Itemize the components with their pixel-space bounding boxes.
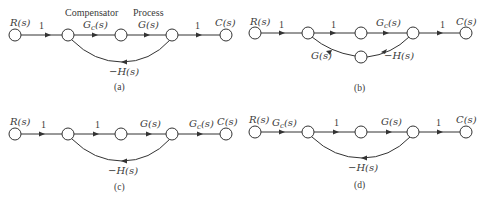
arrow-icon	[361, 156, 367, 161]
compensator-gain-label: Gc(s)	[272, 117, 297, 130]
node-input	[249, 126, 261, 138]
input-label: R(s)	[9, 116, 31, 127]
process-gain-label: G(s)	[381, 116, 402, 127]
arrow-icon	[279, 31, 285, 36]
node	[355, 126, 367, 138]
output-label: C(s)	[456, 114, 477, 125]
feedback-label: −H(s)	[109, 66, 139, 77]
process-gain-label: G(s)	[140, 118, 161, 129]
node-output	[220, 29, 232, 41]
branch-gain-label: 1	[436, 117, 441, 128]
branch-gain-label: 1	[279, 19, 284, 30]
arrow-icon	[437, 31, 443, 36]
branch-gain-label: 1	[440, 19, 445, 30]
arrow-icon	[279, 130, 285, 135]
arrow-icon	[45, 33, 51, 38]
arrow-icon	[93, 132, 99, 137]
process-gain-label: G(s)	[311, 50, 332, 61]
arrow-icon	[330, 31, 336, 36]
node	[302, 126, 314, 138]
arrow-icon	[92, 33, 98, 38]
node-output	[460, 126, 472, 138]
arrow-icon	[197, 132, 203, 137]
arrow-icon	[333, 130, 339, 135]
arrow-icon	[383, 31, 389, 36]
arrow-icon	[121, 60, 127, 65]
node	[115, 128, 127, 140]
output-label: C(s)	[456, 16, 477, 27]
feedback-branch-c	[72, 139, 170, 161]
branch-gain-label: 1	[95, 119, 100, 130]
node-input	[9, 29, 21, 41]
caption: (c)	[114, 182, 125, 193]
node-input	[249, 27, 261, 39]
arrow-icon	[386, 130, 392, 135]
caption: (d)	[354, 180, 365, 191]
input-label: R(s)	[249, 16, 271, 27]
output-label: C(s)	[217, 116, 238, 127]
feedback-label: −H(s)	[108, 165, 138, 176]
branch-gain-label: 1	[39, 20, 44, 31]
node	[407, 27, 419, 39]
node-lower	[355, 51, 367, 63]
node	[407, 126, 419, 138]
node	[302, 27, 314, 39]
diagram-b: R(s) 1 1 Gc(s) 1 C(s) G(s) −H(s) (b)	[249, 16, 477, 94]
arrow-icon	[121, 159, 127, 164]
node	[166, 29, 178, 41]
compensator-gain-label: Gc(s)	[189, 118, 214, 131]
process-gain-label: G(s)	[138, 19, 159, 30]
diagram-d: R(s) Gc(s) 1 G(s) 1 C(s) −H(s) (d)	[248, 114, 477, 191]
feedback-branch-d	[312, 137, 410, 158]
arrow-icon	[146, 132, 152, 137]
compensator-gain-label: Gc(s)	[83, 19, 108, 32]
node-output	[460, 27, 472, 39]
diagram-c: R(s) 1 1 G(s) Gc(s) C(s) −H(s) (c)	[9, 116, 238, 193]
node	[355, 27, 367, 39]
feedback-label: −H(s)	[384, 50, 414, 61]
branch-gain-label: 1	[331, 19, 336, 30]
process-header: Process	[133, 7, 164, 18]
node	[166, 128, 178, 140]
branch-gain-label: 1	[41, 119, 46, 130]
caption: (a)	[114, 82, 125, 93]
arrow-icon	[196, 33, 202, 38]
diagram-a: R(s) 1 Compensator Gc(s) Process G(s) 1 …	[9, 7, 236, 93]
signal-flow-graphs: R(s) 1 Compensator Gc(s) Process G(s) 1 …	[0, 0, 480, 199]
compensator-gain-label: Gc(s)	[376, 17, 401, 30]
feedback-branch-a	[72, 40, 170, 62]
node	[62, 128, 74, 140]
compensator-header: Compensator	[65, 7, 119, 18]
arrow-icon	[437, 130, 443, 135]
branch-gain-label: 1	[334, 117, 339, 128]
arrow-icon	[144, 33, 150, 38]
node	[115, 29, 127, 41]
arrow-icon	[39, 132, 45, 137]
node	[62, 29, 74, 41]
node-input	[9, 128, 21, 140]
branch-gain-label: 1	[195, 20, 200, 31]
output-label: C(s)	[215, 17, 236, 28]
node-output	[220, 128, 232, 140]
feedback-label: −H(s)	[348, 162, 378, 173]
input-label: R(s)	[9, 17, 31, 28]
input-label: R(s)	[248, 114, 270, 125]
caption: (b)	[354, 83, 365, 94]
